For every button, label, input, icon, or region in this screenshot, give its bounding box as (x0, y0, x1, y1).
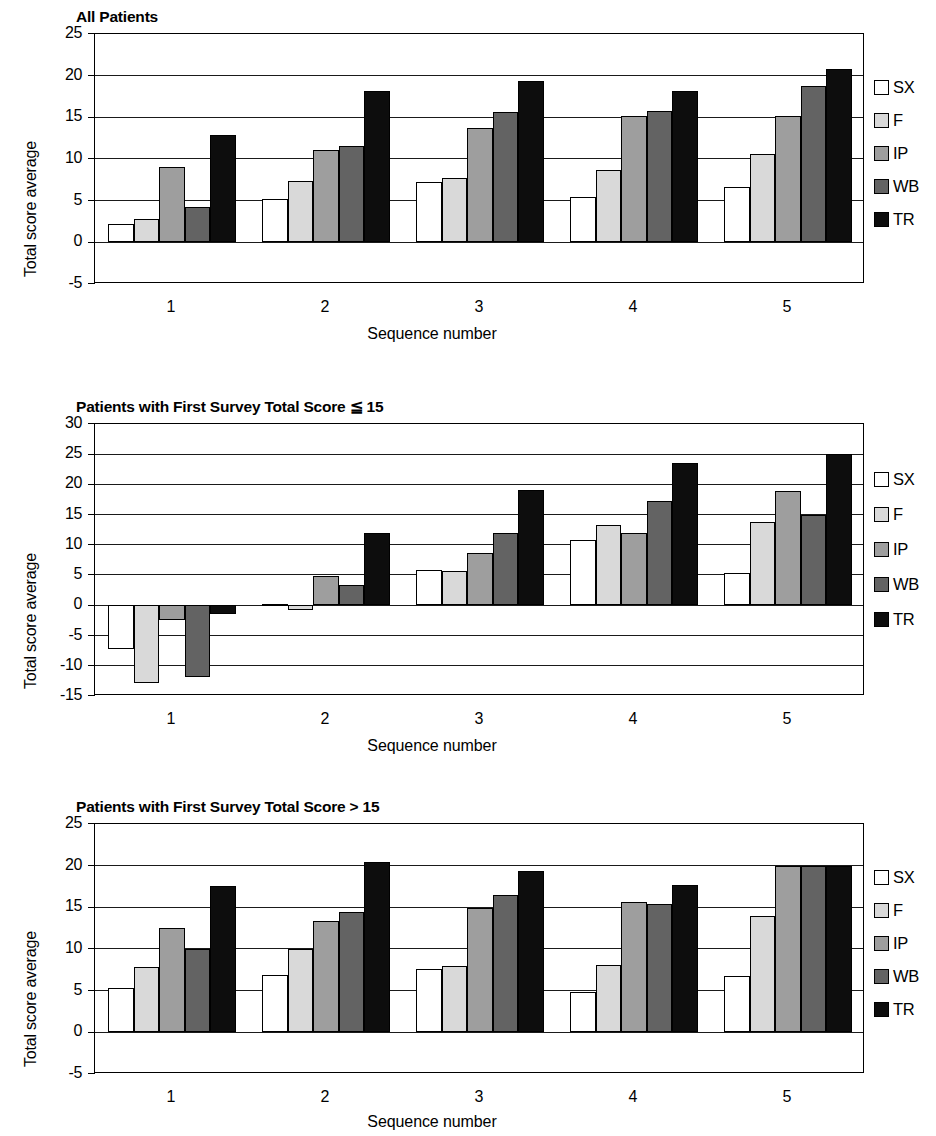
legend-label: WB (893, 575, 919, 594)
legend-swatch-ip-icon (874, 146, 889, 161)
legend-item-sx: SX (874, 868, 914, 887)
y-tick-mark (88, 544, 95, 545)
legend-item-f: F (874, 505, 903, 524)
bar-wb-group-5 (801, 866, 826, 1033)
y-tick-label: 20 (0, 474, 82, 492)
legend-item-tr: TR (874, 610, 914, 629)
y-tick-mark (88, 574, 95, 575)
bar-wb-group-2 (339, 585, 364, 605)
y-tick-mark (88, 665, 95, 666)
bar-ip-group-5 (775, 866, 800, 1033)
plot-area (94, 33, 864, 283)
figure-page: All PatientsTotal score average-50510152… (0, 0, 936, 1136)
bar-f-group-5 (750, 916, 775, 1033)
legend-swatch-ip-icon (874, 542, 889, 557)
legend-swatch-sx-icon (874, 870, 889, 885)
x-tick-label: 4 (629, 298, 638, 316)
bar-f-group-2 (288, 605, 313, 610)
x-tick-label: 4 (629, 710, 638, 728)
y-tick-mark (88, 1073, 95, 1074)
bar-f-group-4 (596, 965, 621, 1033)
bar-wb-group-2 (339, 912, 364, 1033)
bar-tr-group-3 (518, 490, 543, 605)
plot-area (94, 423, 864, 695)
legend-item-sx: SX (874, 470, 914, 489)
x-tick-label: 1 (167, 1088, 176, 1106)
x-tick-label: 4 (629, 1088, 638, 1106)
bar-sx-group-4 (570, 540, 595, 605)
bar-ip-group-3 (467, 553, 492, 606)
y-tick-label: 15 (0, 505, 82, 523)
bar-ip-group-3 (467, 908, 492, 1032)
bar-ip-group-5 (775, 491, 800, 605)
bar-sx-group-2 (262, 604, 287, 606)
bar-wb-group-1 (185, 605, 210, 677)
bar-sx-group-4 (570, 992, 595, 1033)
y-tick-label: 10 (0, 149, 82, 167)
chart-title: Patients with First Survey Total Score ≦… (76, 398, 383, 416)
y-tick-label: -10 (0, 656, 82, 674)
x-tick-label: 1 (167, 710, 176, 728)
bar-tr-group-5 (826, 69, 851, 242)
bar-f-group-4 (596, 170, 621, 243)
x-tick-label: 5 (783, 298, 792, 316)
y-tick-mark (88, 865, 95, 866)
legend-item-f: F (874, 111, 903, 130)
legend-label: TR (893, 1000, 914, 1019)
bar-ip-group-3 (467, 128, 492, 242)
y-tick-mark (88, 33, 95, 34)
y-tick-label: 20 (0, 856, 82, 874)
bar-tr-group-3 (518, 81, 543, 243)
legend-item-wb: WB (874, 177, 919, 196)
plot-area (94, 823, 864, 1073)
bar-f-group-4 (596, 525, 621, 605)
bar-ip-group-1 (159, 605, 184, 620)
bar-tr-group-5 (826, 454, 851, 606)
y-tick-label: 10 (0, 535, 82, 553)
y-tick-mark (88, 990, 95, 991)
y-tick-label: 5 (0, 981, 82, 999)
legend-label: F (893, 901, 903, 920)
y-tick-mark (88, 75, 95, 76)
y-tick-mark (88, 605, 95, 606)
legend-swatch-tr-icon (874, 212, 889, 227)
bar-wb-group-5 (801, 86, 826, 243)
x-tick-label: 3 (475, 298, 484, 316)
bar-tr-group-1 (210, 605, 235, 613)
bar-sx-group-1 (108, 224, 133, 242)
legend-swatch-f-icon (874, 507, 889, 522)
legend-label: F (893, 505, 903, 524)
bar-sx-group-1 (108, 988, 133, 1032)
y-tick-label: 20 (0, 66, 82, 84)
legend-item-ip: IP (874, 934, 908, 953)
bars-layer (95, 824, 863, 1072)
bar-sx-group-5 (724, 573, 749, 606)
y-tick-label: -5 (0, 1064, 82, 1082)
legend-label: SX (893, 78, 914, 97)
y-tick-label: 30 (0, 414, 82, 432)
y-tick-label: 0 (0, 1022, 82, 1040)
legend-item-tr: TR (874, 210, 914, 229)
x-tick-label: 2 (321, 298, 330, 316)
bar-wb-group-2 (339, 146, 364, 243)
legend-swatch-ip-icon (874, 936, 889, 951)
bar-wb-group-4 (647, 501, 672, 606)
y-tick-label: 0 (0, 232, 82, 250)
legend-item-tr: TR (874, 1000, 914, 1019)
chart-title: All Patients (76, 8, 158, 26)
bar-sx-group-2 (262, 975, 287, 1033)
y-tick-label: 15 (0, 107, 82, 125)
y-tick-label: 5 (0, 191, 82, 209)
y-tick-mark (88, 423, 95, 424)
legend-swatch-wb-icon (874, 577, 889, 592)
y-tick-mark (88, 117, 95, 118)
bar-wb-group-4 (647, 111, 672, 243)
y-tick-mark (88, 158, 95, 159)
x-tick-label: 3 (475, 1088, 484, 1106)
bar-ip-group-4 (621, 533, 646, 606)
bar-ip-group-2 (313, 576, 338, 606)
legend-label: IP (893, 540, 908, 559)
legend-label: SX (893, 470, 914, 489)
legend-label: IP (893, 934, 908, 953)
y-tick-label: -5 (0, 626, 82, 644)
